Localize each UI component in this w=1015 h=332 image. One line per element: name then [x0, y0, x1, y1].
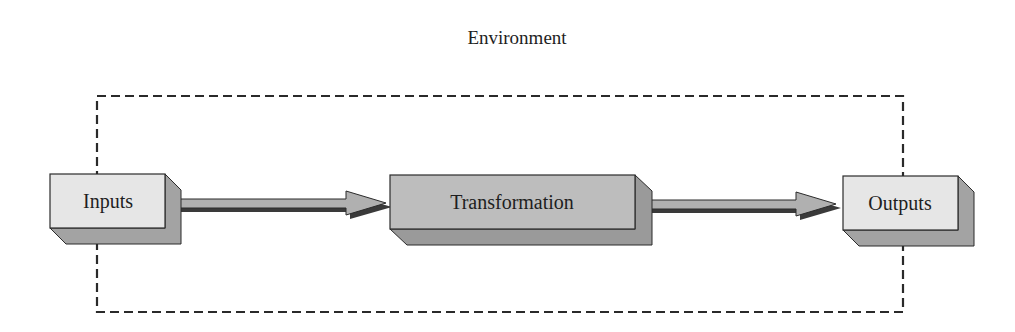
- outputs-box: Outputs: [843, 176, 974, 246]
- arrow-transformation-to-outputs: [639, 192, 841, 220]
- environment-title: Environment: [467, 27, 567, 48]
- inputs-label: Inputs: [83, 190, 133, 213]
- transformation-box: Transformation: [390, 175, 652, 245]
- outputs-label: Outputs: [868, 192, 932, 215]
- arrow-inputs-to-transformation: [171, 191, 392, 219]
- transformation-label: Transformation: [450, 191, 574, 213]
- system-diagram: Environment Inputs Transformation Output…: [0, 0, 1015, 332]
- inputs-box: Inputs: [50, 174, 181, 244]
